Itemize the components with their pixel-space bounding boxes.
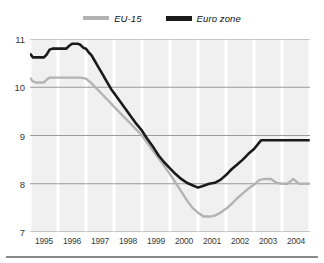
- x-axis-tick-label: 2003: [254, 236, 282, 250]
- x-axis-tick-label: 1998: [114, 236, 142, 250]
- x-axis-tick-label: 2000: [170, 236, 198, 250]
- y-axis-tick-label: 7: [4, 227, 25, 238]
- chart-figure: EU-15 Euro zone 7891011 1995199619971998…: [0, 0, 324, 263]
- x-axis-tick-label: 2001: [198, 236, 226, 250]
- legend-label-eu15: EU-15: [114, 13, 141, 24]
- bottom-divider: [6, 256, 318, 258]
- y-axis-tick-label: 11: [4, 34, 25, 45]
- x-axis: 1995199619971998199920002001200220032004: [30, 236, 310, 250]
- x-axis-tick-label: 2004: [282, 236, 310, 250]
- chart-canvas: [30, 39, 310, 232]
- line-swatch-black-icon: [166, 16, 192, 21]
- y-axis-tick-label: 9: [4, 130, 25, 141]
- y-axis-tick-label: 8: [4, 178, 25, 189]
- legend-item-euro-zone: Euro zone: [166, 13, 241, 24]
- plot-area: [30, 39, 310, 232]
- x-axis-tick-label: 1999: [142, 236, 170, 250]
- x-axis-tick-label: 2002: [226, 236, 254, 250]
- line-swatch-gray-icon: [83, 16, 109, 20]
- x-axis-tick-label: 1997: [86, 236, 114, 250]
- legend-item-eu15: EU-15: [83, 13, 141, 24]
- x-axis-tick-label: 1995: [30, 236, 58, 250]
- x-axis-tick-label: 1996: [58, 236, 86, 250]
- legend-label-euro-zone: Euro zone: [197, 13, 241, 24]
- y-axis-tick-label: 10: [4, 82, 25, 93]
- chart-legend: EU-15 Euro zone: [0, 8, 324, 28]
